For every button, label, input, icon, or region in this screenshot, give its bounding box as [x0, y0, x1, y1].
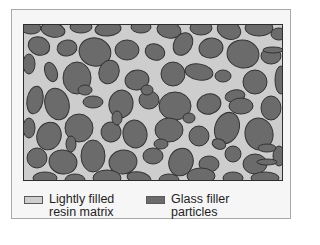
legend-label-line2: particles — [171, 206, 229, 219]
glass-filler-particle — [258, 144, 276, 152]
glass-filler-particle — [251, 172, 279, 181]
legend-item-resin-matrix: Lightly filled resin matrix — [24, 193, 114, 218]
glass-filler-particle — [229, 98, 253, 114]
glass-filler-particle — [70, 24, 92, 33]
glass-filler-particle — [83, 96, 103, 108]
glass-filler-particle — [23, 24, 41, 34]
glass-filler-particle — [143, 148, 163, 164]
legend-label-line1: Lightly filled — [49, 193, 114, 206]
glass-filler-particle — [23, 118, 35, 138]
glass-filler-particle — [261, 96, 281, 120]
glass-filler-particle — [245, 24, 273, 36]
glass-filler-swatch — [146, 196, 165, 204]
glass-filler-particle — [275, 66, 283, 94]
glass-filler-particle — [155, 118, 183, 142]
glass-filler-particle — [112, 111, 122, 125]
glass-filler-particle — [23, 54, 35, 74]
glass-filler-particle — [66, 136, 76, 152]
legend-label-line2: resin matrix — [49, 206, 114, 219]
composite-microstructure-panel — [23, 24, 283, 181]
legend-item-glass-filler: Glass filler particles — [146, 193, 229, 218]
glass-filler-particle — [27, 148, 47, 168]
legend-label-line1: Glass filler — [171, 193, 229, 206]
glass-filler-particle — [131, 24, 151, 33]
resin-matrix-swatch — [24, 196, 43, 204]
glass-filler-particle — [154, 139, 168, 149]
glass-filler-particle — [161, 62, 185, 86]
glass-filler-particle — [81, 140, 105, 172]
glass-filler-particle — [33, 172, 57, 181]
glass-filler-particle — [190, 24, 212, 35]
glass-filler-particle — [141, 85, 153, 95]
glass-filler-particle — [263, 47, 283, 53]
glass-filler-particle — [257, 159, 277, 165]
glass-filler-particle — [189, 126, 209, 146]
legend-label: Lightly filled resin matrix — [49, 193, 114, 218]
particle-field — [23, 24, 283, 181]
glass-filler-particle — [183, 113, 195, 123]
glass-filler-particle — [243, 70, 267, 94]
glass-filler-particle — [115, 40, 139, 60]
glass-filler-particle — [225, 146, 241, 162]
glass-filler-particle — [223, 172, 243, 181]
glass-filler-particle — [271, 28, 283, 40]
glass-filler-particle — [187, 168, 215, 181]
legend-label: Glass filler particles — [171, 193, 229, 218]
glass-filler-particle — [78, 85, 92, 95]
glass-filler-particle — [215, 70, 231, 82]
